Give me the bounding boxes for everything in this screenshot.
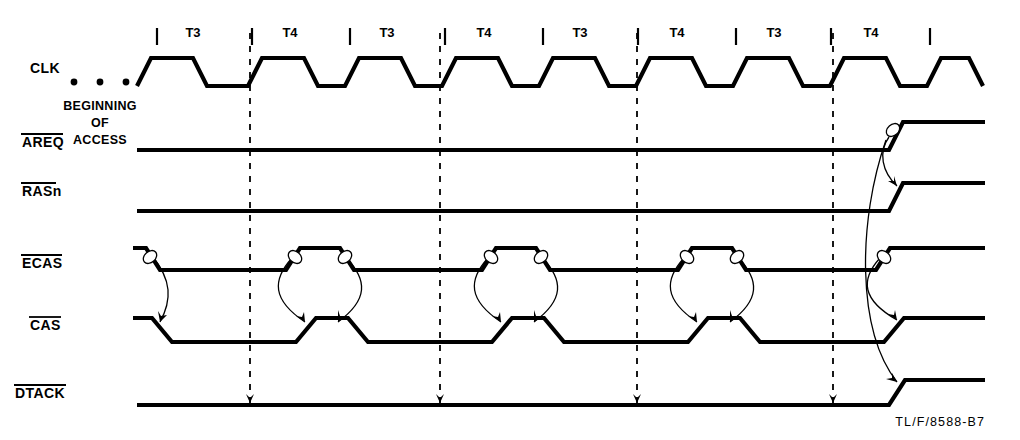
waveform-dtack bbox=[137, 380, 985, 405]
signal-label-ecas-group: ECAS bbox=[21, 255, 63, 271]
waveform-rasn bbox=[137, 183, 985, 211]
signal-label-ecas: ECAS bbox=[22, 255, 63, 271]
signal-label-dtack: DTACK bbox=[15, 385, 65, 401]
phase-label: T4 bbox=[476, 25, 492, 40]
causal-arc bbox=[338, 258, 362, 322]
annotation-line-3: ACCESS bbox=[73, 133, 127, 147]
marker-arrow bbox=[829, 394, 837, 403]
causal-arrowhead bbox=[534, 310, 542, 322]
beginning-of-access-annotation: BEGINNING OF ACCESS bbox=[63, 99, 137, 147]
phase-label: T3 bbox=[766, 25, 781, 40]
phase-label: T4 bbox=[282, 25, 298, 40]
causal-arrowhead bbox=[158, 311, 167, 322]
causal-arrow-group bbox=[141, 248, 897, 322]
phase-label: T3 bbox=[185, 25, 200, 40]
signal-label-rasn: RASn bbox=[22, 183, 62, 199]
waveform-areq bbox=[137, 122, 985, 150]
signal-label-cas: CAS bbox=[30, 317, 61, 333]
ellipsis-dot-2 bbox=[97, 79, 104, 86]
timing-diagram-svg: CLK AREQ RASn ECAS CAS DTACK bbox=[0, 0, 1020, 440]
signal-label-dtack-group: DTACK bbox=[14, 385, 66, 401]
ellipsis-dot-3 bbox=[123, 79, 130, 86]
phase-label: T3 bbox=[379, 25, 394, 40]
phase-tick-group bbox=[157, 28, 930, 45]
ellipsis-dots bbox=[71, 79, 130, 86]
signal-label-cas-group: CAS bbox=[29, 317, 61, 333]
causal-arc bbox=[152, 256, 168, 322]
signal-label-rasn-group: RASn bbox=[21, 183, 62, 199]
causal-arc bbox=[670, 258, 697, 322]
phase-label: T3 bbox=[572, 25, 587, 40]
waveform-cas bbox=[133, 318, 985, 342]
timing-diagram-page: CLK AREQ RASn ECAS CAS DTACK bbox=[0, 0, 1020, 440]
causal-arc bbox=[278, 258, 305, 322]
signal-label-areq-group: AREQ bbox=[21, 134, 64, 150]
waveform-ecas bbox=[133, 248, 985, 270]
phase-label-group: T3 T4 T3 T4 T3 T4 T3 T4 bbox=[185, 25, 879, 40]
marker-arrow bbox=[633, 394, 641, 403]
signal-label-group: CLK AREQ RASn ECAS CAS DTACK bbox=[14, 60, 66, 401]
causal-arrowhead bbox=[338, 310, 346, 322]
waveform-clk bbox=[137, 58, 983, 86]
causal-arc bbox=[867, 258, 897, 320]
causal-arc bbox=[474, 258, 501, 322]
figure-code-label: TL/F/8588-B7 bbox=[895, 415, 985, 429]
causal-arrowhead bbox=[730, 310, 738, 322]
phase-label: T4 bbox=[669, 25, 685, 40]
causal-arc bbox=[534, 258, 558, 322]
signal-label-areq: AREQ bbox=[22, 134, 64, 150]
signal-label-clk: CLK bbox=[30, 60, 60, 76]
annotation-line-2: OF bbox=[91, 116, 109, 130]
marker-arrow bbox=[436, 394, 444, 403]
ellipsis-dot-1 bbox=[71, 79, 78, 86]
causal-arc bbox=[730, 258, 754, 322]
marker-arrow bbox=[246, 394, 254, 403]
annotation-line-1: BEGINNING bbox=[63, 99, 137, 113]
phase-label: T4 bbox=[863, 25, 879, 40]
marker-line-group bbox=[246, 33, 837, 403]
transition-circle bbox=[884, 121, 903, 139]
